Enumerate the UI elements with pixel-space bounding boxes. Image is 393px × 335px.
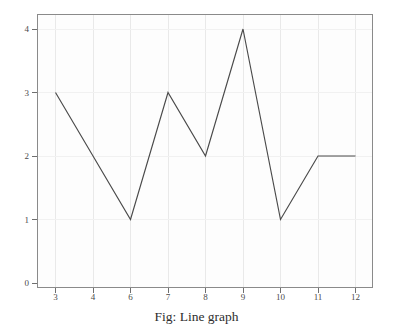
- figure-caption: Fig: Line graph: [155, 309, 239, 324]
- x-tick-label-1: 4: [91, 292, 96, 302]
- y-tick-label-3: 3: [25, 88, 30, 98]
- x-tick-label-8: 12: [351, 292, 360, 302]
- x-tick-label-3: 7: [166, 292, 171, 302]
- x-tick-label-4: 8: [203, 292, 208, 302]
- y-axis-tick-labels: 0 1 2 3 4: [25, 24, 30, 288]
- y-tick-label-1: 1: [25, 215, 30, 225]
- y-tick-label-0: 0: [25, 278, 30, 288]
- x-tick-label-7: 11: [314, 292, 323, 302]
- x-tick-label-0: 3: [53, 292, 58, 302]
- x-tick-label-6: 10: [276, 292, 286, 302]
- x-tick-label-5: 9: [241, 292, 246, 302]
- x-tick-label-2: 6: [128, 292, 133, 302]
- line-chart: 0 1 2 3 4 3 4 6 7 8 9 10 11 12: [0, 0, 393, 335]
- x-axis-tick-labels: 3 4 6 7 8 9 10 11 12: [53, 292, 360, 302]
- y-axis-ticks: [32, 29, 37, 283]
- y-tick-label-4: 4: [25, 24, 30, 34]
- figure-line-graph: 0 1 2 3 4 3 4 6 7 8 9 10 11 12: [0, 0, 393, 335]
- y-tick-label-2: 2: [25, 151, 30, 161]
